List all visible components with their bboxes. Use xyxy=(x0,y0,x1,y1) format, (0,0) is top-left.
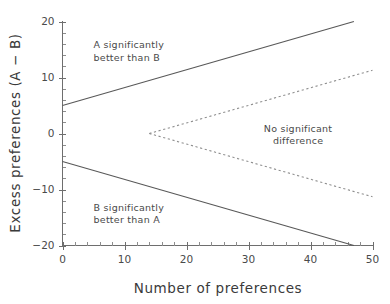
chart-figure: 20100−10−20 01020304050 A significantlyb… xyxy=(0,0,390,304)
y-axis-title: Excess preferences (A − B) xyxy=(7,33,23,232)
x-axis-tick-label: 40 xyxy=(304,253,317,265)
annotation-line: A significantly xyxy=(94,39,165,50)
y-axis-tick-label: −10 xyxy=(32,183,54,195)
x-axis-tick-label: 50 xyxy=(366,253,379,265)
y-axis-tick-label: −20 xyxy=(32,239,54,251)
series-upper-significance-boundary xyxy=(63,22,354,106)
x-axis-minor-ticks xyxy=(64,242,374,246)
annotation-line: No significant xyxy=(264,123,333,134)
annotation-line: better than A xyxy=(94,214,161,225)
y-axis-tick-labels: 20100−10−20 xyxy=(32,15,54,251)
x-axis-tick-labels: 01020304050 xyxy=(59,253,379,265)
y-axis-tick-label: 10 xyxy=(41,71,54,83)
x-axis-title: Number of preferences xyxy=(134,280,303,296)
chart-canvas: 20100−10−20 01020304050 A significantlyb… xyxy=(0,0,390,304)
annotation-line: B significantly xyxy=(94,202,165,213)
annotation-region-b-better: B significantlybetter than A xyxy=(94,202,165,226)
x-axis-tick-label: 10 xyxy=(118,253,131,265)
y-axis-tick-label: 20 xyxy=(41,15,54,27)
x-axis-tick-label: 0 xyxy=(59,253,66,265)
annotation-region-no-difference: No significantdifference xyxy=(264,123,333,147)
annotation-line: better than B xyxy=(94,52,160,63)
annotation-region-a-better: A significantlybetter than B xyxy=(94,39,165,63)
x-axis-tick-label: 30 xyxy=(242,253,255,265)
series-lower-dotted-boundary xyxy=(149,134,372,197)
chart-annotations: A significantlybetter than BNo significa… xyxy=(94,39,333,225)
series-upper-dotted-boundary xyxy=(149,70,372,133)
x-axis-tick-label: 20 xyxy=(180,253,193,265)
y-axis-tick-label: 0 xyxy=(48,127,55,139)
annotation-line: difference xyxy=(273,135,323,146)
